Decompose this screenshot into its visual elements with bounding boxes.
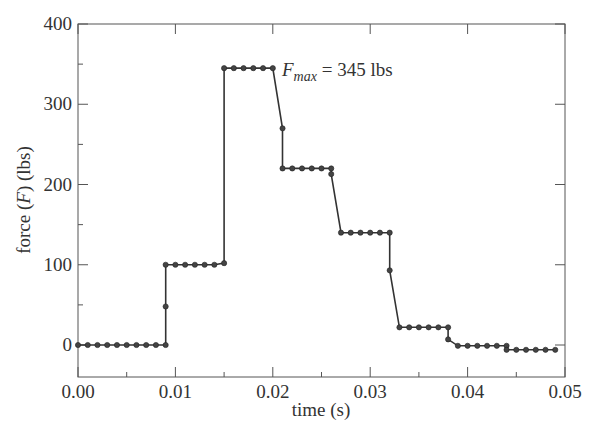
data-point <box>319 166 324 171</box>
y-tick-label: 400 <box>44 13 73 34</box>
data-point <box>114 342 119 347</box>
x-tick-label: 0.05 <box>548 381 581 402</box>
data-point <box>134 342 139 347</box>
data-point <box>192 262 197 267</box>
y-tick-label: 0 <box>63 334 73 355</box>
data-point <box>280 126 285 131</box>
data-point <box>251 66 256 71</box>
data-point <box>455 343 460 348</box>
data-point <box>446 325 451 330</box>
data-point <box>416 325 421 330</box>
data-point <box>494 343 499 348</box>
x-tick-label: 0.02 <box>256 381 289 402</box>
data-point <box>387 230 392 235</box>
data-point <box>105 342 110 347</box>
data-point <box>446 337 451 342</box>
data-point <box>426 325 431 330</box>
data-point <box>212 262 217 267</box>
y-tick-label: 300 <box>44 93 73 114</box>
data-point <box>436 325 441 330</box>
data-point <box>260 66 265 71</box>
data-point <box>504 347 509 352</box>
data-point <box>153 342 158 347</box>
x-tick-label: 0.00 <box>61 381 94 402</box>
data-point <box>465 343 470 348</box>
data-point <box>523 347 528 352</box>
data-point <box>95 342 100 347</box>
data-point <box>163 342 168 347</box>
data-point <box>75 342 80 347</box>
x-tick-label: 0.03 <box>354 381 387 402</box>
data-point <box>484 343 489 348</box>
data-point <box>553 347 558 352</box>
data-point <box>163 262 168 267</box>
y-axis-label: force (F) (lbs) <box>13 146 35 254</box>
data-point <box>270 66 275 71</box>
data-point <box>309 166 314 171</box>
data-point <box>163 304 168 309</box>
data-point <box>299 166 304 171</box>
data-point <box>144 342 149 347</box>
data-point <box>475 343 480 348</box>
data-point <box>124 342 129 347</box>
data-point <box>329 166 334 171</box>
data-point <box>231 66 236 71</box>
data-point <box>514 347 519 352</box>
data-point <box>533 347 538 352</box>
data-point <box>348 230 353 235</box>
data-point <box>85 342 90 347</box>
x-tick-label: 0.04 <box>451 381 485 402</box>
force-time-chart: 0.000.010.020.030.040.050100200300400 ti… <box>0 0 598 432</box>
data-point <box>387 268 392 273</box>
x-tick-label: 0.01 <box>159 381 192 402</box>
data-point <box>202 262 207 267</box>
fmax-annotation: Fmax = 345 lbs <box>281 59 393 84</box>
data-point <box>173 262 178 267</box>
data-point <box>222 261 227 266</box>
data-point <box>329 171 334 176</box>
data-point <box>222 66 227 71</box>
y-tick-label: 100 <box>44 254 73 275</box>
force-series-line <box>78 68 555 350</box>
y-tick-label: 200 <box>44 174 73 195</box>
data-point <box>358 230 363 235</box>
data-point <box>397 325 402 330</box>
data-point <box>338 230 343 235</box>
data-point <box>241 66 246 71</box>
data-point <box>183 262 188 267</box>
data-point <box>377 230 382 235</box>
data-point <box>280 166 285 171</box>
data-point-markers <box>75 66 557 353</box>
x-axis-label: time (s) <box>292 399 351 421</box>
data-point <box>407 325 412 330</box>
data-point <box>290 166 295 171</box>
data-point <box>543 347 548 352</box>
data-point <box>368 230 373 235</box>
